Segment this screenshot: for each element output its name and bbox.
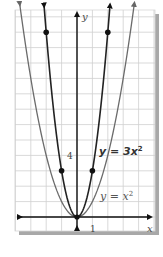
graph-figure: y x 1 4 y = 3x2 y = x2 [0, 0, 163, 257]
y-tick-label-4: 4 [67, 151, 73, 161]
data-point [90, 168, 96, 174]
data-point [105, 29, 111, 35]
graph-frame [15, 10, 155, 231]
data-point [43, 29, 49, 35]
x-tick-label-1: 1 [90, 224, 96, 234]
y-axis-label: y [81, 11, 88, 22]
data-point [74, 214, 79, 219]
label-y-equals-3x-squared: y = 3x2 [99, 145, 143, 158]
label-x2-exp: 2 [129, 190, 133, 198]
label-y-equals-x-squared: y = x2 [99, 190, 133, 203]
x-axis-label: x [147, 223, 153, 234]
label-x2-prefix: y = [99, 190, 122, 203]
data-point [59, 168, 65, 174]
label-3x2-prefix: y = 3 [99, 145, 131, 158]
label-3x2-exp: 2 [138, 145, 143, 153]
